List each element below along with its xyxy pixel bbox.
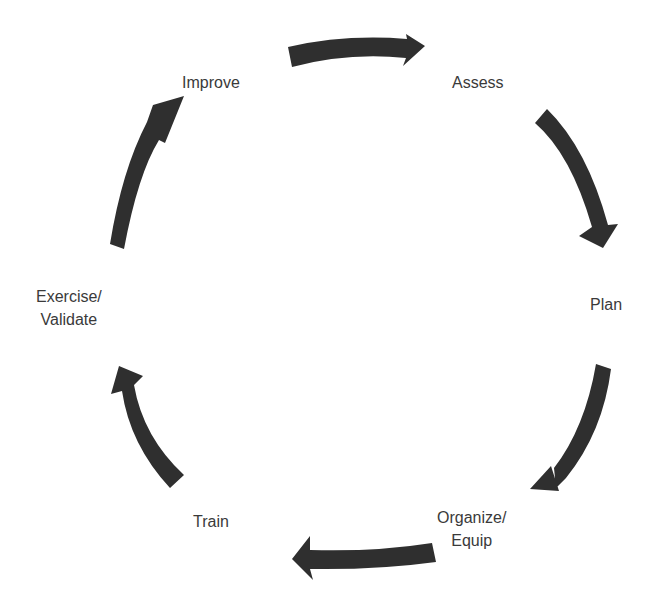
arrow-improve-to-assess-icon [288,34,425,67]
stage-improve-label: Improve [182,71,240,94]
stage-exercise-validate-label: Exercise/ Validate [36,285,102,331]
stage-plan-label: Plan [590,293,622,316]
arrow-plan-to-organize-icon [530,364,611,491]
preparedness-cycle-diagram: Improve Assess Plan Organize/ Equip Trai… [0,0,660,609]
arrow-exercise-to-improve-icon [110,96,184,249]
arrow-organize-to-train-icon [292,536,436,580]
stage-train-label: Train [193,510,229,533]
stage-assess-label: Assess [452,71,504,94]
arrow-train-to-exercise-icon [111,366,184,488]
arrow-assess-to-plan-icon [535,109,618,248]
stage-organize-equip-label: Organize/ Equip [437,506,506,552]
